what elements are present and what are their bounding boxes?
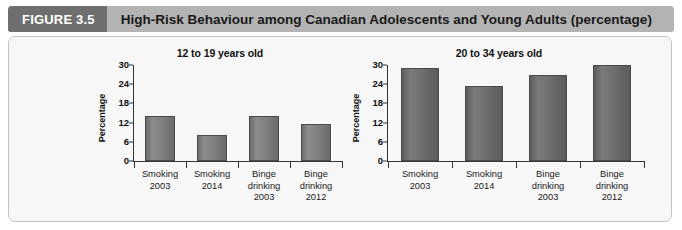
chart-title: 12 to 19 years old xyxy=(95,47,345,59)
chart-title: 20 to 34 years old xyxy=(349,47,649,59)
x-axis-labels: Smoking2003Smoking2014Bingedrinking2003B… xyxy=(134,169,342,204)
x-tick-mark xyxy=(580,161,581,168)
x-tick-mark xyxy=(186,161,187,168)
bar-group xyxy=(134,65,342,161)
chart-1: 12 to 19 years oldPercentage0612182430Sm… xyxy=(95,47,345,215)
bar-slot xyxy=(134,65,186,161)
x-tick-mark xyxy=(238,161,239,168)
plot-area: Percentage0612182430Smoking2003Smoking20… xyxy=(349,65,649,191)
chart-2: 20 to 34 years oldPercentage0612182430Sm… xyxy=(349,47,649,215)
bar xyxy=(465,86,503,161)
bar-slot xyxy=(186,65,238,161)
bar-slot xyxy=(238,65,290,161)
y-tick-label: 18 xyxy=(118,99,129,109)
bar xyxy=(249,116,279,161)
bar-slot xyxy=(290,65,342,161)
bar-group xyxy=(388,65,644,161)
figure-header: FIGURE 3.5 High-Risk Behaviour among Can… xyxy=(8,6,674,32)
figure-container: FIGURE 3.5 High-Risk Behaviour among Can… xyxy=(0,0,682,230)
y-axis-ticks: 0612182430 xyxy=(109,65,133,161)
plot-area: Percentage0612182430Smoking2003Smoking20… xyxy=(95,65,345,191)
bar xyxy=(197,135,227,161)
y-tick-label: 30 xyxy=(372,60,383,70)
bar-slot xyxy=(388,65,452,161)
bar-slot xyxy=(580,65,644,161)
x-tick-label: Bingedrinking2003 xyxy=(238,169,290,204)
bar xyxy=(401,68,439,161)
x-tick-label: Bingedrinking2003 xyxy=(516,169,580,204)
y-tick-label: 12 xyxy=(372,118,383,128)
y-axis-label: Percentage xyxy=(349,79,363,157)
x-axis-labels: Smoking2003Smoking2014Bingedrinking2003B… xyxy=(388,169,644,204)
y-tick-label: 18 xyxy=(372,99,383,109)
bar xyxy=(593,65,631,161)
x-tick-label: Smoking2003 xyxy=(134,169,186,204)
figure-number-tag: FIGURE 3.5 xyxy=(8,6,107,32)
x-tick-mark xyxy=(342,161,343,168)
bar xyxy=(529,75,567,161)
x-axis-ticks xyxy=(133,161,343,168)
bar-slot xyxy=(516,65,580,161)
x-tick-label: Smoking2014 xyxy=(186,169,238,204)
x-tick-mark xyxy=(644,161,645,168)
figure-title: High-Risk Behaviour among Canadian Adole… xyxy=(107,6,652,32)
x-axis-ticks xyxy=(387,161,645,168)
y-tick-label: 24 xyxy=(118,79,129,89)
x-tick-label: Bingedrinking2012 xyxy=(290,169,342,204)
y-tick-label: 12 xyxy=(118,118,129,128)
y-axis-label: Percentage xyxy=(95,79,109,157)
x-tick-mark xyxy=(516,161,517,168)
x-tick-mark xyxy=(134,161,135,168)
charts-area: 12 to 19 years oldPercentage0612182430Sm… xyxy=(9,37,671,221)
x-tick-label: Bingedrinking2012 xyxy=(580,169,644,204)
bar xyxy=(145,116,175,161)
x-tick-mark xyxy=(388,161,389,168)
bar-slot xyxy=(452,65,516,161)
x-tick-label: Smoking2014 xyxy=(452,169,516,204)
y-axis-ticks: 0612182430 xyxy=(363,65,387,161)
y-tick-label: 30 xyxy=(118,60,129,70)
bar xyxy=(301,124,331,161)
x-tick-label: Smoking2003 xyxy=(388,169,452,204)
figure-panel: 12 to 19 years oldPercentage0612182430Sm… xyxy=(8,36,672,222)
y-tick-label: 24 xyxy=(372,79,383,89)
x-tick-mark xyxy=(452,161,453,168)
x-tick-mark xyxy=(290,161,291,168)
